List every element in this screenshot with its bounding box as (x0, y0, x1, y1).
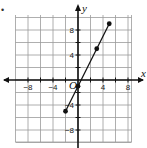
coordinate-plane: • −8−44884−4−8 x y O (0, 0, 147, 148)
y-tick-label: 4 (70, 51, 75, 60)
x-axis-label: x (140, 67, 146, 79)
origin-label: O (69, 79, 77, 91)
y-tick-label: −8 (65, 126, 75, 135)
y-tick-label: 8 (70, 26, 75, 35)
x-tick-label: −4 (48, 83, 58, 92)
x-tick-label: 4 (101, 83, 106, 92)
x-tick-label: 8 (126, 83, 131, 92)
problem-bullet: • (1, 5, 4, 15)
data-point (63, 109, 68, 114)
x-axis-left-arrow-icon (3, 77, 9, 83)
y-axis-label: y (81, 2, 87, 14)
x-tick-label: −8 (23, 83, 33, 92)
y-axis-up-arrow-icon (75, 4, 81, 11)
data-point (107, 21, 112, 26)
data-point (94, 46, 99, 51)
